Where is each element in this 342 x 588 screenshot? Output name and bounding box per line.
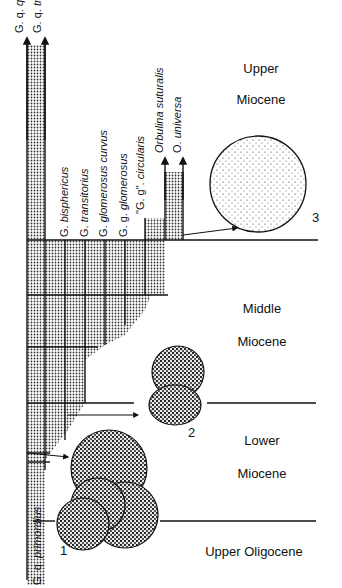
label-bisphericus: G. bisphericus xyxy=(58,166,70,237)
epoch-upper-miocene-line2: Miocene xyxy=(236,92,285,107)
label-glomerosus-curvus: G. glomerosus curvus xyxy=(97,129,109,237)
label-transitorius: G. transitorius xyxy=(78,168,90,237)
label-circularis: "G. g". circularis xyxy=(134,135,146,214)
label-o-universa: O. universa xyxy=(171,97,183,153)
pointer-arrow-3 xyxy=(183,228,237,235)
epoch-upper-oligocene: Upper Oligocene xyxy=(205,544,303,559)
specimen-3-number: 3 xyxy=(312,210,319,225)
label-orbulina-suturalis: Orbulina suturalis xyxy=(153,67,165,153)
specimen-2-glomerosus: 2 xyxy=(149,346,204,440)
epoch-middle-miocene-line2: Miocene xyxy=(237,334,286,349)
epoch-lower-miocene-line1: Lower xyxy=(244,433,280,448)
specimen-2-number: 2 xyxy=(188,425,195,440)
specimen-3-orbulina: 3 xyxy=(210,136,319,232)
specimen-1-number: 1 xyxy=(60,543,67,558)
label-g-g-glomerosus: G. g. glomerosus xyxy=(117,153,129,237)
epoch-middle-miocene-line1: Middle xyxy=(243,301,281,316)
label-trilobus: G. q. trilobus xyxy=(31,0,43,33)
foraminifera-evolution-diagram: 3 2 1 G. q. quadrilobatus G. q. trilobus… xyxy=(0,0,342,588)
epoch-lower-miocene-line2: Miocene xyxy=(237,466,286,481)
epoch-upper-miocene-line1: Upper xyxy=(243,61,279,76)
specimen-1-primordius: 1 xyxy=(57,430,158,558)
label-primordius: G. q. primordius xyxy=(31,506,43,585)
label-quadrilobatus: G. q. quadrilobatus xyxy=(13,0,25,33)
